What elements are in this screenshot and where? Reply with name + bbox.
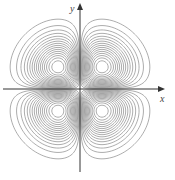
contour-plot: x y xyxy=(0,0,175,180)
x-axis-label: x xyxy=(159,93,165,104)
y-axis-arrow-icon xyxy=(77,3,83,10)
y-axis-label: y xyxy=(69,3,75,14)
x-axis-arrow-icon xyxy=(158,86,165,92)
